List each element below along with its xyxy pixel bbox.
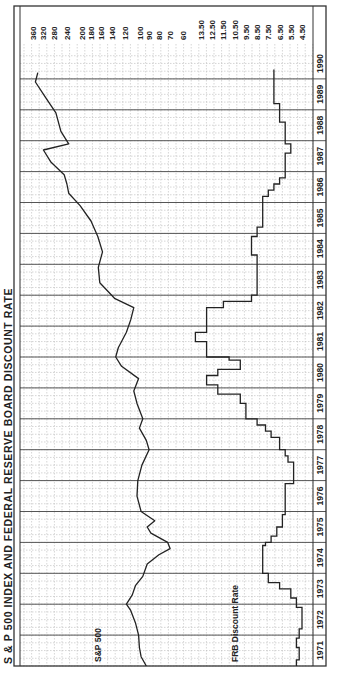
svg-text:1987: 1987 <box>315 146 325 165</box>
svg-text:200: 200 <box>78 26 87 40</box>
svg-text:5.50: 5.50 <box>287 24 296 40</box>
svg-text:1975: 1975 <box>315 517 325 536</box>
svg-text:60: 60 <box>179 31 188 40</box>
svg-text:1979: 1979 <box>315 394 325 413</box>
series-lines <box>35 70 302 666</box>
svg-text:280: 280 <box>50 26 59 40</box>
svg-text:240: 240 <box>63 26 72 40</box>
sp500-axis-labels: 36032028024020018016014012010090807060 <box>29 26 188 40</box>
chart: S & P 500 INDEX AND FEDERAL RESERVE BOAR… <box>0 0 340 682</box>
svg-text:FRB Discount Rate: FRB Discount Rate <box>230 585 240 662</box>
svg-text:160: 160 <box>97 26 106 40</box>
svg-text:1989: 1989 <box>315 85 325 104</box>
svg-text:1980: 1980 <box>315 363 325 382</box>
svg-text:8.50: 8.50 <box>253 24 262 40</box>
svg-text:320: 320 <box>39 26 48 40</box>
svg-text:1983: 1983 <box>315 270 325 289</box>
chart-title: S & P 500 INDEX AND FEDERAL RESERVE BOAR… <box>2 288 14 664</box>
svg-text:11.50: 11.50 <box>219 20 228 40</box>
svg-text:360: 360 <box>29 26 38 40</box>
svg-text:80: 80 <box>155 31 164 40</box>
svg-text:10.50: 10.50 <box>231 19 240 40</box>
svg-text:1976: 1976 <box>315 486 325 505</box>
svg-text:140: 140 <box>108 26 117 40</box>
svg-text:7.50: 7.50 <box>264 24 273 40</box>
svg-text:1973: 1973 <box>315 579 325 598</box>
svg-text:1971: 1971 <box>315 641 325 660</box>
svg-text:1984: 1984 <box>315 239 325 258</box>
svg-text:1972: 1972 <box>315 610 325 629</box>
svg-text:180: 180 <box>87 26 96 40</box>
svg-text:1974: 1974 <box>315 548 325 567</box>
svg-text:12.50: 12.50 <box>208 19 217 40</box>
svg-text:13.50: 13.50 <box>197 19 206 40</box>
svg-text:1988: 1988 <box>315 116 325 135</box>
svg-text:1986: 1986 <box>315 177 325 196</box>
svg-text:70: 70 <box>166 31 175 40</box>
svg-text:9.50: 9.50 <box>242 24 251 40</box>
svg-text:120: 120 <box>121 26 130 40</box>
svg-text:100: 100 <box>136 26 145 40</box>
svg-text:6.50: 6.50 <box>276 24 285 40</box>
svg-text:1977: 1977 <box>315 455 325 474</box>
grid <box>20 44 326 666</box>
svg-text:1981: 1981 <box>315 332 325 351</box>
svg-text:1982: 1982 <box>315 301 325 320</box>
svg-text:1978: 1978 <box>315 425 325 444</box>
svg-text:1985: 1985 <box>315 208 325 227</box>
svg-text:90: 90 <box>145 31 154 40</box>
svg-text:1990: 1990 <box>315 54 325 73</box>
svg-text:S & P 500 INDEX AND FEDE: S & P 500 INDEX AND FEDERAL RESERVE BOAR… <box>2 288 14 664</box>
svg-text:S&P 500: S&P 500 <box>93 628 103 662</box>
svg-text:4.50: 4.50 <box>298 24 307 40</box>
rate-axis-labels: 13.5012.5011.5010.509.508.507.506.505.50… <box>197 19 307 40</box>
